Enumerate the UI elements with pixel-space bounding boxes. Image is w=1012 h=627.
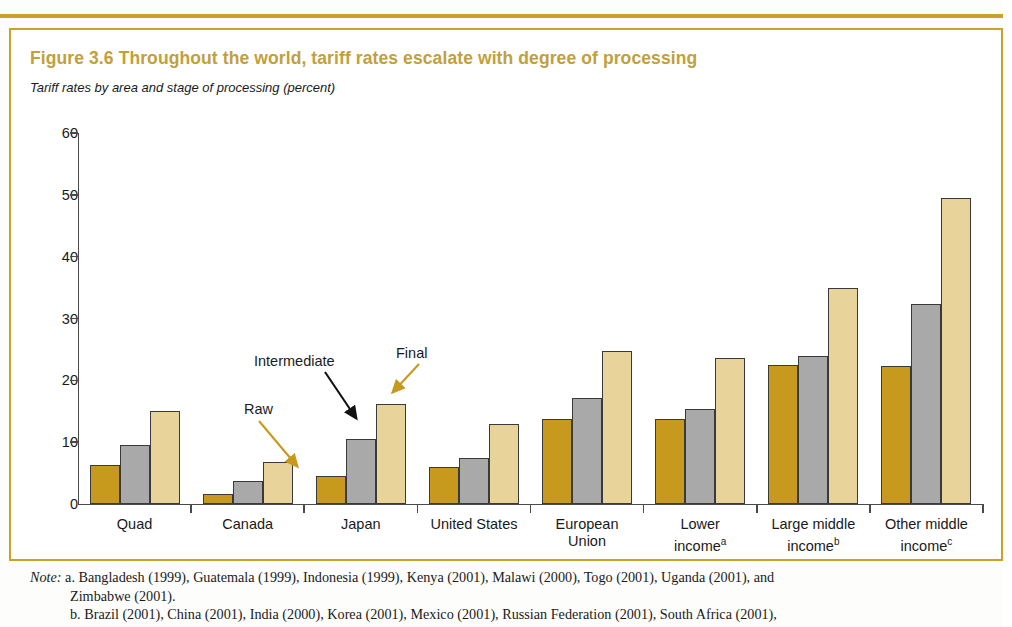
bar-inter bbox=[798, 356, 828, 504]
bar-inter bbox=[233, 481, 263, 504]
y-axis-ticks: 0102030405060 bbox=[30, 133, 78, 504]
bar-raw bbox=[429, 467, 459, 504]
note-line-a: Note: a. Bangladesh (1999), Guatemala (1… bbox=[30, 568, 1005, 587]
bar-inter bbox=[572, 398, 602, 504]
bar-raw bbox=[881, 366, 911, 504]
x-axis-separators bbox=[78, 504, 983, 514]
bar-inter bbox=[911, 304, 941, 504]
bar-raw bbox=[542, 419, 572, 504]
bar-inter bbox=[459, 458, 489, 504]
bar-raw bbox=[316, 476, 346, 504]
bar-groups bbox=[78, 133, 983, 504]
x-axis-separator bbox=[982, 504, 984, 513]
y-tick-mark bbox=[70, 256, 78, 258]
bar-final bbox=[602, 351, 632, 504]
y-tick-mark bbox=[70, 132, 78, 134]
bar-group bbox=[644, 133, 757, 504]
y-tick-mark bbox=[70, 194, 78, 196]
footnote-marker: a bbox=[721, 536, 727, 547]
figure-page: Figure 3.6 Throughout the world, tariff … bbox=[0, 0, 1012, 627]
bar-inter bbox=[120, 445, 150, 504]
x-axis-label: Other middleincomec bbox=[870, 516, 983, 555]
bar-final bbox=[263, 462, 293, 504]
x-axis-label: Japan bbox=[304, 516, 417, 555]
x-axis-label: EuropeanUnion bbox=[531, 516, 644, 555]
y-tick-label: 0 bbox=[40, 496, 78, 512]
bar-raw bbox=[90, 465, 120, 504]
figure-subtitle: Tariff rates by area and stage of proces… bbox=[30, 80, 335, 95]
x-axis-separator bbox=[756, 504, 758, 513]
bar-raw bbox=[203, 494, 233, 505]
x-axis-separator bbox=[530, 504, 532, 513]
x-axis-label: Canada bbox=[191, 516, 304, 555]
page-title: Figure 3.6 Throughout the world, tariff … bbox=[30, 48, 697, 69]
x-axis-label: Quad bbox=[78, 516, 191, 555]
x-axis-separator bbox=[869, 504, 871, 513]
figure-note: Note: a. Bangladesh (1999), Guatemala (1… bbox=[30, 568, 1005, 624]
x-axis-separator bbox=[303, 504, 305, 513]
bar-final bbox=[715, 358, 745, 504]
bar-group bbox=[78, 133, 191, 504]
top-rule bbox=[0, 14, 1012, 18]
bar-final bbox=[150, 411, 180, 504]
bar-final bbox=[828, 288, 858, 504]
x-axis-label: United States bbox=[417, 516, 530, 555]
bar-group bbox=[304, 133, 417, 504]
bar-group bbox=[531, 133, 644, 504]
bar-final bbox=[941, 198, 971, 504]
bar-group bbox=[870, 133, 983, 504]
note-line-b: b. Brazil (2001), China (2001), India (2… bbox=[30, 605, 1005, 624]
note-label: Note: bbox=[30, 569, 62, 585]
note-text-a: a. Bangladesh (1999), Guatemala (1999), … bbox=[65, 569, 774, 585]
bar-raw bbox=[768, 365, 798, 504]
y-tick-mark bbox=[70, 318, 78, 320]
page-right-margin bbox=[1003, 0, 1012, 627]
y-tick-mark bbox=[70, 380, 78, 382]
x-axis-separator bbox=[417, 504, 419, 513]
footnote-marker: c bbox=[947, 536, 952, 547]
bar-final bbox=[376, 404, 406, 504]
bar-inter bbox=[685, 409, 715, 504]
chart-plot: 0102030405060 QuadCanadaJapanUnited Stat… bbox=[30, 120, 990, 520]
x-axis-separator bbox=[643, 504, 645, 513]
x-axis-label: Large middleincomeb bbox=[757, 516, 870, 555]
bar-group bbox=[191, 133, 304, 504]
bar-final bbox=[489, 424, 519, 504]
x-axis-labels: QuadCanadaJapanUnited StatesEuropeanUnio… bbox=[78, 516, 983, 555]
note-line-a-cont: Zimbabwe (2001). bbox=[30, 587, 1005, 606]
y-tick-mark bbox=[70, 441, 78, 443]
footnote-marker: b bbox=[834, 536, 840, 547]
bar-group bbox=[417, 133, 530, 504]
x-axis-label: Lowerincomea bbox=[644, 516, 757, 555]
bar-raw bbox=[655, 419, 685, 504]
bar-inter bbox=[346, 439, 376, 504]
x-axis-separator bbox=[190, 504, 192, 513]
bar-group bbox=[757, 133, 870, 504]
